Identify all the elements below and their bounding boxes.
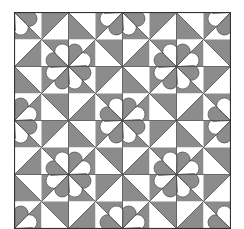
quilt-pattern <box>14 12 231 229</box>
